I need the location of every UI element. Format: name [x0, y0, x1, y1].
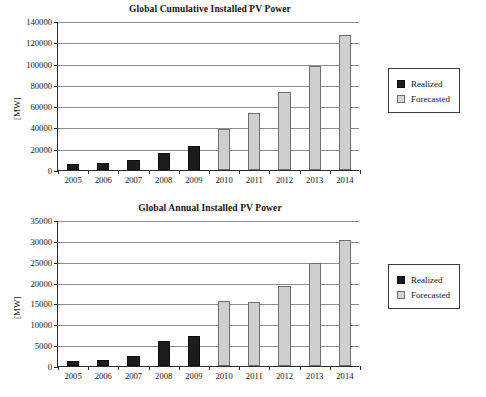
bar-realized-2007 [127, 356, 139, 366]
bar-realized-2006 [97, 360, 109, 366]
bar-forecasted-2011 [248, 302, 260, 366]
x-axis-tick [360, 170, 361, 174]
legend-swatch-forecasted-icon [397, 291, 405, 299]
y-axis-label: [MW] [12, 297, 22, 320]
x-axis-tick-label: 2010 [216, 371, 233, 381]
y-axis-tick [54, 107, 58, 108]
gridline [58, 242, 359, 243]
y-axis-tick [54, 65, 58, 66]
x-axis-tick [58, 366, 59, 370]
x-axis-tick-label: 2013 [306, 175, 323, 185]
y-axis-tick-label: 0 [48, 166, 52, 176]
legend-label-forecasted: Forecasted [411, 290, 450, 300]
bar-realized-2005 [67, 361, 79, 366]
legend-label-realized: Realized [411, 79, 442, 89]
y-axis-tick-label: 80000 [31, 81, 52, 91]
x-axis-tick [179, 170, 180, 174]
bar-realized-2008 [158, 341, 170, 366]
y-axis-tick [54, 263, 58, 264]
x-axis-tick-label: 2012 [276, 175, 293, 185]
x-axis-tick-label: 2012 [276, 371, 293, 381]
y-axis-tick [54, 284, 58, 285]
y-axis-tick-label: 30000 [31, 237, 52, 247]
plot-area: 0200004000060000800001000001200001400002… [57, 22, 359, 171]
gridline [58, 22, 359, 23]
x-axis-tick-label: 2009 [185, 175, 202, 185]
y-axis-tick [54, 346, 58, 347]
x-axis-tick [239, 170, 240, 174]
y-axis-tick-label: 40000 [31, 123, 52, 133]
x-axis-tick [330, 170, 331, 174]
plot-area: 0500010000150002000025000300003500020052… [57, 221, 359, 367]
legend-item-forecasted: Forecasted [397, 290, 450, 300]
bar-forecasted-2014 [339, 35, 351, 170]
y-axis-tick-label: 35000 [31, 216, 52, 226]
x-axis-tick [149, 170, 150, 174]
x-axis-tick-label: 2007 [125, 371, 142, 381]
x-axis-tick [300, 170, 301, 174]
x-axis-tick [88, 170, 89, 174]
legend-swatch-realized-icon [397, 80, 405, 88]
y-axis-tick [54, 221, 58, 222]
x-axis-tick [179, 366, 180, 370]
x-axis-tick-label: 2013 [306, 371, 323, 381]
y-axis-tick [54, 242, 58, 243]
bar-forecasted-2013 [309, 66, 321, 170]
bar-realized-2009 [188, 336, 200, 366]
x-axis-tick [269, 366, 270, 370]
y-axis-tick-label: 25000 [31, 258, 52, 268]
y-axis-tick-label: 5000 [35, 341, 52, 351]
x-axis-tick-label: 2007 [125, 175, 142, 185]
y-axis-tick-label: 20000 [31, 145, 52, 155]
x-axis-tick [269, 170, 270, 174]
x-axis-tick [360, 366, 361, 370]
x-axis-tick-label: 2006 [95, 371, 112, 381]
y-axis-tick [54, 128, 58, 129]
bar-forecasted-2010 [218, 129, 230, 171]
y-axis-tick-label: 120000 [26, 38, 52, 48]
x-axis-tick [118, 170, 119, 174]
x-axis-tick [58, 170, 59, 174]
y-axis-tick-label: 100000 [26, 60, 52, 70]
legend-item-realized: Realized [397, 79, 450, 89]
bar-forecasted-2012 [278, 92, 290, 170]
x-axis-tick [88, 366, 89, 370]
bar-realized-2006 [97, 163, 109, 170]
bar-forecasted-2011 [248, 113, 260, 170]
x-axis-tick-label: 2005 [65, 175, 82, 185]
legend-item-realized: Realized [397, 275, 450, 285]
x-axis-tick-label: 2009 [185, 371, 202, 381]
legend-swatch-forecasted-icon [397, 95, 405, 103]
bar-realized-2008 [158, 153, 170, 170]
x-axis-tick-label: 2014 [336, 371, 353, 381]
legend-label-forecasted: Forecasted [411, 94, 450, 104]
bar-realized-2009 [188, 146, 200, 170]
bar-realized-2007 [127, 160, 139, 170]
x-axis-tick [300, 366, 301, 370]
bar-forecasted-2012 [278, 286, 290, 366]
y-axis-tick-label: 20000 [31, 279, 52, 289]
y-axis-tick [54, 22, 58, 23]
bar-realized-2005 [67, 164, 79, 170]
bar-forecasted-2013 [309, 263, 321, 366]
bar-forecasted-2014 [339, 240, 351, 366]
x-axis-tick [239, 366, 240, 370]
x-axis-tick-label: 2005 [65, 371, 82, 381]
legend-swatch-realized-icon [397, 276, 405, 284]
y-axis-tick-label: 0 [48, 362, 52, 372]
gridline [58, 221, 359, 222]
x-axis-tick-label: 2008 [155, 371, 172, 381]
x-axis-tick [209, 366, 210, 370]
x-axis-tick [209, 170, 210, 174]
x-axis-tick-label: 2008 [155, 175, 172, 185]
x-axis-tick-label: 2010 [216, 175, 233, 185]
legend: Realized Forecasted [388, 68, 460, 113]
x-axis-tick-label: 2014 [336, 175, 353, 185]
y-axis-tick [54, 150, 58, 151]
y-axis-tick-label: 15000 [31, 299, 52, 309]
chart-title: Global Cumulative Installed PV Power [60, 4, 360, 14]
chart-title: Global Annual Installed PV Power [60, 203, 360, 213]
legend-item-forecasted: Forecasted [397, 94, 450, 104]
chart-annual-installed-pv-power: Global Annual Installed PV Power [MW] 05… [0, 199, 486, 397]
x-axis-tick-label: 2006 [95, 175, 112, 185]
